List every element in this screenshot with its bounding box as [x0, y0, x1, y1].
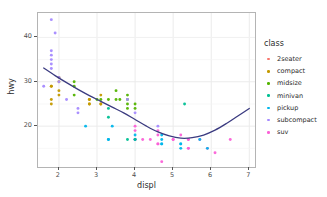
legend-label: compact: [277, 67, 305, 75]
data-point: [134, 129, 137, 132]
plot-canvas: [38, 13, 255, 167]
data-point: [99, 94, 102, 97]
data-point: [107, 138, 110, 141]
legend-swatch: [267, 94, 270, 97]
data-point: [77, 107, 80, 110]
legend-swatch: [267, 58, 270, 61]
data-point: [57, 94, 60, 97]
data-point: [57, 89, 60, 92]
data-point: [126, 98, 129, 101]
data-point: [179, 134, 182, 137]
legend-label: minivan: [277, 92, 303, 100]
data-point: [214, 151, 217, 154]
smooth-curve: [44, 68, 250, 138]
data-point: [134, 103, 137, 106]
data-point: [156, 125, 159, 128]
data-point: [111, 125, 114, 128]
data-point: [77, 111, 80, 114]
plot-area: [38, 13, 255, 167]
legend-label: midsize: [277, 79, 302, 87]
legend-item-compact[interactable]: compact: [263, 65, 325, 77]
data-point: [141, 138, 144, 141]
y-tick-label: 20: [13, 121, 32, 129]
data-point: [134, 125, 137, 128]
data-point: [50, 18, 53, 21]
data-point: [73, 94, 76, 97]
legend-key-icon: [263, 78, 274, 89]
legend-title: class: [263, 39, 325, 48]
legend-key-icon: [263, 102, 274, 113]
legend-swatch: [267, 107, 270, 110]
data-point: [84, 125, 87, 128]
legend-label: 2seater: [277, 55, 302, 63]
x-tick-mark: [248, 167, 249, 170]
y-tick-label: 30: [13, 77, 32, 85]
data-point: [160, 160, 163, 163]
legend-item-2seater[interactable]: 2seater: [263, 53, 325, 65]
x-tick-label: 7: [238, 171, 258, 179]
x-tick-label: 2: [48, 171, 68, 179]
x-tick-mark: [172, 167, 173, 170]
y-tick-mark: [34, 125, 37, 126]
data-point: [54, 32, 57, 35]
data-point: [179, 142, 182, 145]
legend-item-midsize[interactable]: midsize: [263, 77, 325, 89]
y-axis-title: hwy: [7, 67, 16, 107]
data-point: [156, 134, 159, 137]
data-point: [134, 111, 137, 114]
legend-label: suv: [277, 128, 288, 136]
data-point: [42, 85, 45, 88]
data-point: [134, 138, 137, 141]
legend-key-icon: [263, 127, 274, 138]
data-point: [160, 142, 163, 145]
data-point: [115, 89, 118, 92]
plot-panel: [37, 12, 256, 168]
data-point: [156, 142, 159, 145]
x-tick-label: 4: [124, 171, 144, 179]
data-point: [160, 138, 163, 141]
data-point: [107, 116, 110, 119]
legend-item-subcompact[interactable]: subcompact: [263, 114, 325, 126]
data-point: [179, 147, 182, 150]
data-point: [50, 49, 53, 52]
x-tick-mark: [134, 167, 135, 170]
data-point: [134, 107, 137, 110]
legend-swatch: [267, 119, 270, 122]
data-point: [50, 67, 53, 70]
data-point: [206, 147, 209, 150]
data-point: [50, 98, 53, 101]
y-tick-label: 40: [13, 32, 32, 40]
x-tick-label: 3: [86, 171, 106, 179]
data-point: [73, 80, 76, 83]
data-point: [65, 98, 68, 101]
data-point: [229, 138, 232, 141]
data-point: [172, 138, 175, 141]
data-point: [126, 138, 129, 141]
legend-label: pickup: [277, 104, 298, 112]
y-tick-mark: [34, 36, 37, 37]
scatter-plot-figure: 203040234567 displ hwy class 2seatercomp…: [0, 0, 327, 197]
legend-item-suv[interactable]: suv: [263, 126, 325, 138]
data-points: [42, 18, 231, 163]
legend-label: subcompact: [277, 116, 317, 124]
data-point: [99, 103, 102, 106]
data-point: [118, 98, 121, 101]
legend-swatch: [267, 131, 270, 134]
data-point: [126, 107, 129, 110]
data-point: [107, 98, 110, 101]
x-tick-label: 6: [200, 171, 220, 179]
legend-items: 2seatercompactmidsizeminivanpickupsubcom…: [263, 53, 325, 138]
x-tick-mark: [210, 167, 211, 170]
data-point: [50, 85, 53, 88]
data-point: [187, 147, 190, 150]
data-point: [50, 58, 53, 61]
data-point: [126, 103, 129, 106]
legend-key-icon: [263, 90, 274, 101]
legend-item-pickup[interactable]: pickup: [263, 102, 325, 114]
data-point: [115, 98, 118, 101]
data-point: [88, 103, 91, 106]
legend: class 2seatercompactmidsizeminivanpickup…: [263, 39, 325, 138]
data-point: [107, 107, 110, 110]
legend-item-minivan[interactable]: minivan: [263, 90, 325, 102]
data-point: [50, 63, 53, 66]
